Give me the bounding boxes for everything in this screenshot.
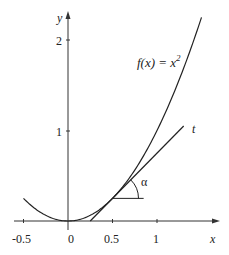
function-tangent-chart: -0.5 0 0.5 1 1 2 x y f(x) = x2 t α bbox=[0, 0, 229, 255]
y-axis-label: y bbox=[56, 11, 63, 25]
x-axis-label: x bbox=[209, 232, 216, 246]
y-axis-arrow-icon bbox=[66, 11, 71, 19]
y-tick-label: 2 bbox=[56, 34, 62, 48]
parabola-curve bbox=[24, 17, 202, 221]
x-tick-label: 0 bbox=[68, 232, 74, 246]
tangent-label: t bbox=[192, 122, 196, 136]
axes bbox=[14, 11, 220, 230]
angle-label: α bbox=[141, 175, 148, 189]
x-axis-arrow-icon bbox=[212, 219, 220, 224]
function-label: f(x) = x2 bbox=[137, 53, 181, 70]
angle-arc bbox=[131, 180, 139, 199]
x-tick-label: -0.5 bbox=[12, 232, 31, 246]
y-tick-label: 1 bbox=[56, 125, 62, 139]
x-tick-label: 1 bbox=[153, 232, 159, 246]
x-tick-label: 0.5 bbox=[104, 232, 119, 246]
tangent-line bbox=[90, 126, 183, 221]
